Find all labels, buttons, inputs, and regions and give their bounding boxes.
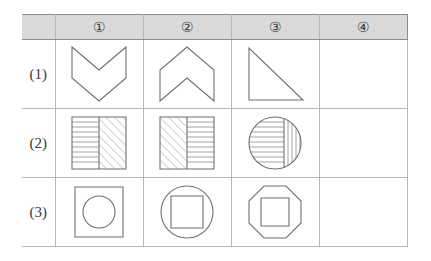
column-header-label: ②: [181, 21, 194, 35]
header-row: ① ② ③ ④: [22, 15, 407, 40]
cell-r2c4-answer-blank: [319, 109, 407, 178]
chevron-down-shape: [56, 40, 143, 108]
cell-r1c3: [231, 40, 319, 109]
circle-in-square-shape: [56, 178, 143, 246]
cell-r2c3: [231, 109, 319, 178]
square-hatch-left-lines-right-shape: [144, 109, 231, 177]
column-header-4: ④: [319, 15, 407, 40]
right-triangle-shape: [232, 40, 319, 108]
table-row: (2): [22, 109, 407, 178]
cell-r3c1: [55, 178, 143, 247]
circle-lines-left-vertical-right-shape: [232, 109, 319, 177]
square-in-octagon-shape: [232, 178, 319, 246]
square-in-circle-shape: [144, 178, 231, 246]
row-label-2: (2): [22, 109, 55, 178]
column-header-label: ④: [357, 21, 370, 35]
column-header-2: ②: [143, 15, 231, 40]
cell-r3c4-answer-blank: [319, 178, 407, 247]
cell-r1c4-answer-blank: [319, 40, 407, 109]
cell-r1c1: [55, 40, 143, 109]
grid-corner-cell: [22, 15, 55, 40]
column-header-label: ①: [93, 21, 106, 35]
cell-r3c2: [143, 178, 231, 247]
column-header-1: ①: [55, 15, 143, 40]
cell-r2c2: [143, 109, 231, 178]
row-label-3: (3): [22, 178, 55, 247]
table-row: (1): [22, 40, 407, 109]
row-label-1: (1): [22, 40, 55, 109]
cell-r1c2: [143, 40, 231, 109]
puzzle-grid: ① ② ③ ④ (1): [22, 14, 408, 247]
cell-r3c3: [231, 178, 319, 247]
square-lines-left-hatch-right-shape: [56, 109, 143, 177]
puzzle-sheet: ① ② ③ ④ (1): [0, 0, 431, 261]
cell-r2c1: [55, 109, 143, 178]
column-header-3: ③: [231, 15, 319, 40]
chevron-up-shape: [144, 40, 231, 108]
table-row: (3): [22, 178, 407, 247]
column-header-label: ③: [269, 21, 282, 35]
